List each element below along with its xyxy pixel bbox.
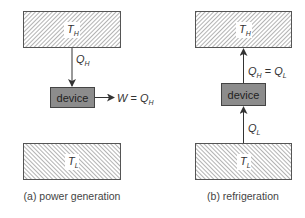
svg-text:QL: QL (248, 122, 261, 136)
cold-reservoir: TL (24, 144, 121, 180)
svg-text:QH = QL: QH = QL (248, 65, 287, 79)
caption-power-generation: (a) power generation (24, 190, 121, 202)
panel-refrigeration: TH QH = QL device QL TL (b) refrigeratio… (196, 12, 292, 203)
svg-text:device: device (228, 89, 260, 101)
heat-flow-arrow-device-to-hot: QH = QL (244, 49, 287, 83)
panel-power-generation: TH QH device W = QH TL (a) power generat… (24, 12, 155, 203)
heat-flow-arrow-hot-to-device: QH (72, 48, 91, 86)
heat-engine-diagram: TH QH device W = QH TL (a) power generat… (0, 0, 305, 218)
hot-reservoir: TH (196, 12, 292, 48)
device-box: device (51, 88, 95, 108)
work-output-arrow: W = QH (95, 92, 155, 106)
hot-reservoir: TH (24, 12, 121, 48)
caption-refrigeration: (b) refrigeration (207, 190, 279, 202)
cold-reservoir: TL (196, 144, 292, 180)
svg-text:W = QH: W = QH (117, 92, 155, 106)
svg-text:QH: QH (76, 53, 91, 67)
svg-text:device: device (57, 92, 89, 104)
device-box: device (222, 84, 266, 106)
heat-flow-arrow-cold-to-device: QL (244, 107, 261, 143)
